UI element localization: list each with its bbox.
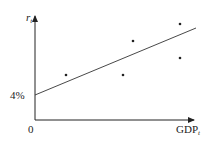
data-point xyxy=(65,74,68,77)
x-axis-label: GDPt xyxy=(176,123,201,137)
y-axis-label: rt xyxy=(26,11,33,25)
y-intercept-label: 4% xyxy=(10,89,25,101)
origin-label: 0 xyxy=(28,123,34,135)
data-point xyxy=(132,40,135,43)
trend-line xyxy=(35,28,196,95)
data-point xyxy=(179,57,182,60)
scatter-points xyxy=(65,23,182,77)
data-point xyxy=(179,23,182,26)
data-point xyxy=(122,74,125,77)
chart: rt 4% 0 GDPt xyxy=(0,0,217,143)
